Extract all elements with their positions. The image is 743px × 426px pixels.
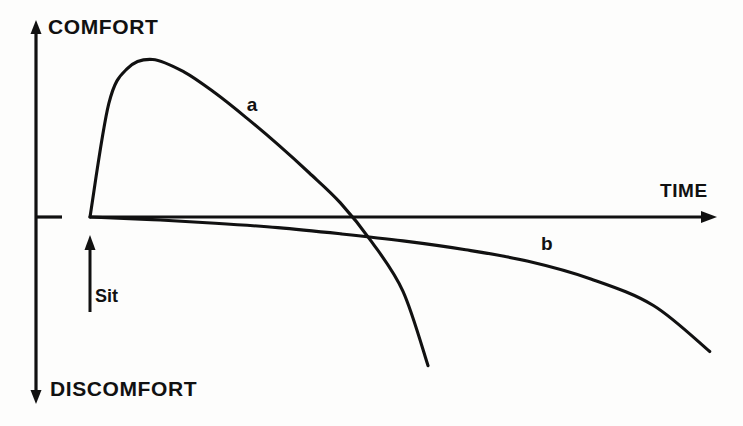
curve-a-label: a bbox=[247, 94, 258, 116]
time-axis-arrow-icon bbox=[701, 211, 717, 223]
discomfort-axis-label: DISCOMFORT bbox=[50, 377, 197, 401]
comfort-axis-label: COMFORT bbox=[48, 15, 158, 39]
sit-marker-arrow-icon bbox=[85, 235, 96, 312]
sit-marker-label: Sit bbox=[95, 286, 118, 307]
time-axis-label: TIME bbox=[660, 180, 708, 202]
vertical-axis bbox=[31, 20, 63, 404]
figure-container: COMFORT DISCOMFORT TIME a b Sit bbox=[0, 0, 743, 426]
comfort-axis-arrow-icon bbox=[31, 20, 42, 34]
plot-area bbox=[0, 0, 743, 426]
discomfort-axis-arrow-icon bbox=[31, 390, 42, 404]
curve-a bbox=[90, 59, 428, 365]
curve-b-label: b bbox=[541, 233, 553, 255]
